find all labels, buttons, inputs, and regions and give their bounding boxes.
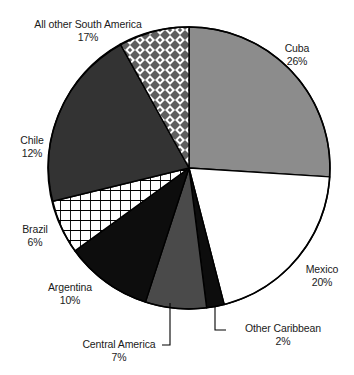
leader-line-other-caribbean [215, 306, 226, 330]
pie-label-chile: Chile 12% [6, 134, 58, 159]
pie-label-all-other-south-america: All other South America 17% [8, 18, 168, 43]
pie-label-value: 26% [268, 55, 326, 68]
pie-label-name: Brazil [8, 223, 62, 236]
pie-label-value: 12% [6, 147, 58, 160]
pie-label-name: Argentina [34, 281, 106, 294]
pie-label-value: 17% [8, 31, 168, 44]
pie-label-name: Chile [6, 134, 58, 147]
pie-label-value: 2% [228, 335, 338, 348]
pie-label-value: 10% [34, 294, 106, 307]
pie-label-mexico: Mexico 20% [296, 263, 348, 288]
pie-label-argentina: Argentina 10% [34, 281, 106, 306]
pie-label-cuba: Cuba 26% [268, 42, 326, 67]
pie-label-name: Central America [62, 338, 176, 351]
pie-label-brazil: Brazil 6% [8, 223, 62, 248]
pie-label-central-america: Central America 7% [62, 338, 176, 363]
pie-label-name: Other Caribbean [228, 322, 338, 335]
pie-label-value: 7% [62, 351, 176, 364]
pie-chart: All other South America 17% Cuba 26% Mex… [0, 0, 354, 375]
pie-label-other-caribbean: Other Caribbean 2% [228, 322, 338, 347]
pie-label-value: 6% [8, 236, 62, 249]
pie-label-name: Mexico [296, 263, 348, 276]
pie-label-name: Cuba [268, 42, 326, 55]
pie-label-value: 20% [296, 276, 348, 289]
pie-label-name: All other South America [8, 18, 168, 31]
